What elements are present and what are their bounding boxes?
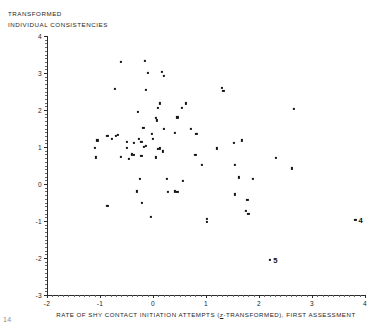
y-tick-minor bbox=[45, 288, 47, 289]
y-tick-label: 3 bbox=[38, 70, 42, 77]
y-tick-minor bbox=[45, 214, 47, 215]
y-tick-minor bbox=[45, 55, 47, 56]
y-tick-major bbox=[44, 221, 47, 222]
x-tick-minor bbox=[201, 295, 202, 297]
y-tick-minor bbox=[45, 280, 47, 281]
x-tick-minor bbox=[307, 295, 308, 297]
y-tick-minor bbox=[45, 121, 47, 122]
x-tick-minor bbox=[79, 295, 80, 297]
x-tick-minor bbox=[238, 295, 239, 297]
y-tick-minor bbox=[45, 117, 47, 118]
data-point bbox=[182, 180, 184, 182]
data-point bbox=[190, 127, 192, 129]
data-point bbox=[141, 201, 143, 203]
x-tick-minor bbox=[280, 295, 281, 297]
x-tick-minor bbox=[164, 295, 165, 297]
y-tick-major bbox=[44, 110, 47, 111]
y-tick-minor bbox=[45, 195, 47, 196]
x-tick-minor bbox=[275, 295, 276, 297]
x-tick-minor bbox=[344, 295, 345, 297]
data-point bbox=[151, 133, 153, 135]
y-axis-line bbox=[47, 36, 48, 295]
x-tick-minor bbox=[248, 295, 249, 297]
y-tick-minor bbox=[45, 136, 47, 137]
x-tick-minor bbox=[270, 295, 271, 297]
y-tick-label: -3 bbox=[36, 292, 42, 299]
y-tick-label: 0 bbox=[38, 181, 42, 188]
y-tick-minor bbox=[45, 125, 47, 126]
x-tick-label: -2 bbox=[44, 300, 50, 307]
data-point bbox=[161, 71, 163, 73]
y-tick-minor bbox=[45, 210, 47, 211]
y-tick-minor bbox=[45, 199, 47, 200]
data-point bbox=[114, 87, 116, 89]
data-point bbox=[106, 205, 108, 207]
data-point bbox=[185, 102, 187, 104]
x-tick-minor bbox=[105, 295, 106, 297]
data-point bbox=[195, 133, 197, 135]
data-point bbox=[176, 191, 178, 193]
y-tick-minor bbox=[45, 154, 47, 155]
y-tick-major bbox=[44, 184, 47, 185]
data-point bbox=[143, 60, 145, 62]
data-point bbox=[222, 90, 224, 92]
y-tick-minor bbox=[45, 88, 47, 89]
x-tick-major bbox=[153, 295, 154, 298]
data-point bbox=[157, 107, 159, 109]
data-point-label: 4 bbox=[358, 216, 362, 225]
data-point bbox=[194, 154, 196, 156]
y-tick-minor bbox=[45, 92, 47, 93]
y-tick-minor bbox=[45, 277, 47, 278]
data-point bbox=[120, 156, 122, 158]
data-point bbox=[221, 87, 223, 89]
y-tick-minor bbox=[45, 180, 47, 181]
x-tick-label: 0 bbox=[151, 300, 155, 307]
y-tick-minor bbox=[45, 203, 47, 204]
y-tick-minor bbox=[45, 269, 47, 270]
data-point bbox=[161, 150, 163, 152]
x-tick-minor bbox=[84, 295, 85, 297]
y-tick-minor bbox=[45, 43, 47, 44]
data-point bbox=[354, 219, 356, 221]
data-point bbox=[117, 134, 119, 136]
x-tick-label: 4 bbox=[363, 300, 367, 307]
data-point bbox=[201, 164, 203, 166]
x-tick-minor bbox=[180, 295, 181, 297]
x-tick-label: -1 bbox=[97, 300, 103, 307]
data-point bbox=[152, 138, 154, 140]
data-point bbox=[206, 221, 208, 223]
y-tick-minor bbox=[45, 188, 47, 189]
y-axis-caption-line1: TRANSFORMED bbox=[8, 8, 108, 19]
data-point bbox=[166, 178, 168, 180]
data-point bbox=[111, 138, 113, 140]
data-point bbox=[138, 138, 140, 140]
y-tick-minor bbox=[45, 217, 47, 218]
x-tick-minor bbox=[354, 295, 355, 297]
x-tick-minor bbox=[360, 295, 361, 297]
y-tick-major bbox=[44, 73, 47, 74]
data-point bbox=[142, 127, 144, 129]
data-point bbox=[293, 108, 295, 110]
y-tick-minor bbox=[45, 240, 47, 241]
x-tick-minor bbox=[58, 295, 59, 297]
y-tick-label: 1 bbox=[38, 144, 42, 151]
y-tick-minor bbox=[45, 103, 47, 104]
y-tick-minor bbox=[45, 158, 47, 159]
data-point bbox=[205, 218, 207, 220]
y-tick-major bbox=[44, 258, 47, 259]
x-tick-minor bbox=[333, 295, 334, 297]
x-axis-caption-pre: RATE OF SHY CONTACT INITIATION ATTEMPTS … bbox=[56, 311, 220, 318]
x-tick-minor bbox=[339, 295, 340, 297]
y-tick-minor bbox=[45, 251, 47, 252]
y-tick-minor bbox=[45, 284, 47, 285]
x-tick-minor bbox=[233, 295, 234, 297]
data-point bbox=[126, 141, 128, 143]
data-point bbox=[137, 111, 139, 113]
data-point bbox=[125, 147, 127, 149]
data-point bbox=[95, 156, 97, 158]
y-axis-caption: TRANSFORMED INDIVIDUAL CONSISTENCIES bbox=[8, 8, 108, 30]
x-tick-label: 1 bbox=[204, 300, 208, 307]
data-point bbox=[174, 132, 176, 134]
x-tick-minor bbox=[291, 295, 292, 297]
data-point bbox=[155, 156, 157, 158]
